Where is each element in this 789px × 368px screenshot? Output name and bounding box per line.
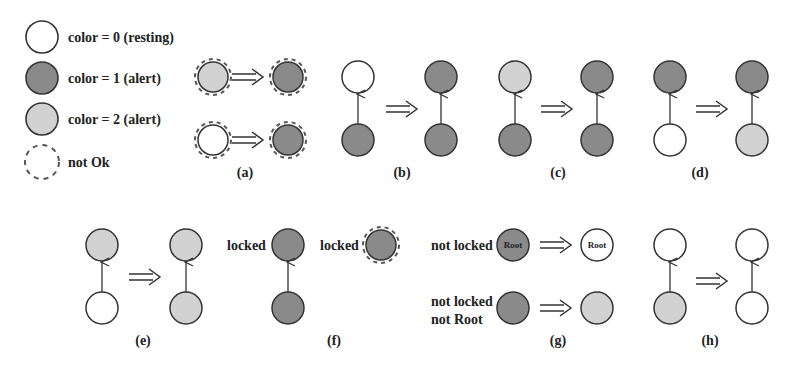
node-alert1 xyxy=(425,61,457,93)
node-alert1 xyxy=(425,124,457,156)
transition-arrow-icon xyxy=(696,101,727,117)
caption-b: (b) xyxy=(393,165,410,181)
legend-resting-circle xyxy=(26,21,58,53)
node-resting xyxy=(342,61,374,93)
node-alert1 xyxy=(272,292,304,324)
node-resting xyxy=(198,125,228,155)
legend-label-alert2: color = 2 (alert) xyxy=(68,112,161,128)
panel-c: (c) xyxy=(499,61,613,181)
panel-d: (d) xyxy=(654,61,768,181)
node-resting xyxy=(736,229,768,261)
legend-label-notok: not Ok xyxy=(68,155,110,170)
transition-arrow-icon xyxy=(386,101,417,117)
transition-arrow-icon xyxy=(129,269,160,285)
label-not-locked: not locked xyxy=(431,294,493,309)
transition-arrow-icon xyxy=(540,300,571,316)
legend: color = 0 (resting) color = 1 (alert) co… xyxy=(25,21,174,179)
panel-b: (b) xyxy=(342,61,457,181)
node-resting xyxy=(736,292,768,324)
node-alert1 xyxy=(342,124,374,156)
node-alert2 xyxy=(170,292,202,324)
node-alert2 xyxy=(736,124,768,156)
panel-a: (a) xyxy=(195,59,306,181)
node-alert2 xyxy=(581,292,613,324)
transition-arrow-icon xyxy=(541,101,572,117)
transition-arrow-icon xyxy=(540,237,571,253)
legend-label-alert1: color = 1 (alert) xyxy=(68,71,161,87)
root-label: Root xyxy=(504,240,523,250)
legend-label-resting: color = 0 (resting) xyxy=(68,30,174,46)
node-alert1 xyxy=(654,61,686,93)
label-not-root: not Root xyxy=(431,312,483,327)
node-alert1 xyxy=(273,62,303,92)
panel-h: (h) xyxy=(654,229,768,349)
caption-c: (c) xyxy=(550,165,566,181)
panel-f: locked locked (f) xyxy=(227,227,399,349)
state-transition-diagram: color = 0 (resting) color = 1 (alert) co… xyxy=(0,0,789,368)
caption-e: (e) xyxy=(135,333,151,349)
node-resting xyxy=(654,124,686,156)
label-not-locked: not locked xyxy=(431,238,493,253)
root-label: Root xyxy=(588,240,607,250)
transition-arrow-icon xyxy=(232,132,263,148)
legend-notok-dashed-circle xyxy=(25,145,59,179)
panel-g: not locked Root Root not locked not Root… xyxy=(431,229,613,349)
node-alert2 xyxy=(198,62,228,92)
node-alert1 xyxy=(736,61,768,93)
transition-arrow-icon xyxy=(232,69,263,85)
node-alert1 xyxy=(272,229,304,261)
label-locked: locked xyxy=(320,238,359,253)
caption-g: (g) xyxy=(550,333,567,349)
transition-arrow-icon xyxy=(696,273,727,289)
legend-alert2-circle xyxy=(26,103,58,135)
caption-f: (f) xyxy=(327,333,341,349)
node-alert2 xyxy=(499,61,531,93)
caption-h: (h) xyxy=(701,333,718,349)
node-alert1 xyxy=(273,125,303,155)
node-resting xyxy=(654,229,686,261)
caption-d: (d) xyxy=(691,165,708,181)
node-alert1 xyxy=(499,124,531,156)
node-alert1 xyxy=(366,230,396,260)
legend-alert1-circle xyxy=(26,62,58,94)
node-resting xyxy=(86,292,118,324)
node-alert2 xyxy=(86,229,118,261)
label-locked: locked xyxy=(227,238,266,253)
caption-a: (a) xyxy=(237,165,254,181)
node-alert1 xyxy=(581,124,613,156)
node-alert1 xyxy=(581,61,613,93)
node-alert2 xyxy=(654,292,686,324)
panel-e: (e) xyxy=(86,229,202,349)
node-alert1 xyxy=(497,292,529,324)
node-alert2 xyxy=(170,229,202,261)
